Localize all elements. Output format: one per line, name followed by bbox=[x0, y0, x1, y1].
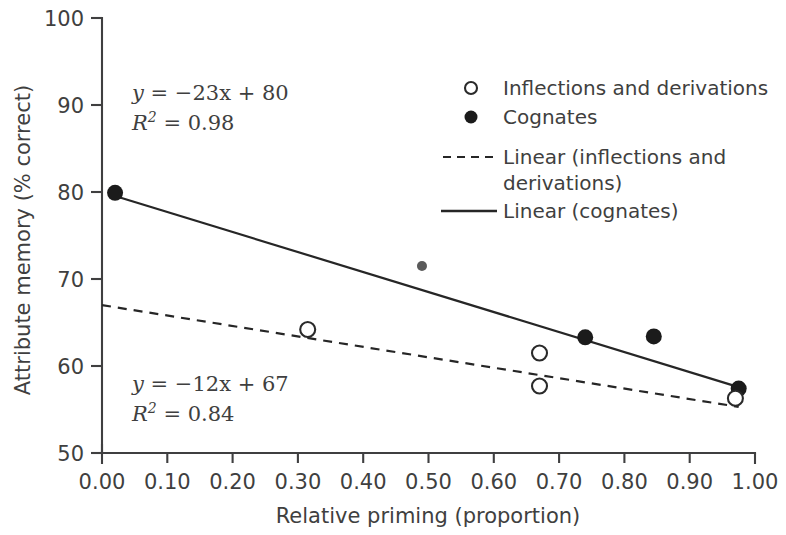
inflections-equation-line1: y = −12x + 67 bbox=[131, 372, 289, 396]
cognates-equation-line1: y = −23x + 80 bbox=[131, 81, 289, 105]
x-tick-label: 0.40 bbox=[340, 470, 387, 494]
inflections-equation-line2: R2 = 0.84 bbox=[131, 400, 234, 426]
x-tick-label: 0.30 bbox=[275, 470, 322, 494]
open-circle-icon bbox=[465, 82, 477, 94]
y-tick-label: 90 bbox=[57, 94, 84, 118]
y-tick-label: 60 bbox=[57, 355, 84, 379]
x-tick-label: 0.10 bbox=[144, 470, 191, 494]
x-tick-label: 0.90 bbox=[666, 470, 713, 494]
data-point-inflections bbox=[728, 391, 743, 406]
scatter-plot-figure: 5060708090100 0.000.100.200.300.400.500.… bbox=[0, 0, 786, 535]
x-tick-label: 0.20 bbox=[209, 470, 256, 494]
annotation-inflections-equation: y = −12x + 67 R2 = 0.84 bbox=[131, 372, 289, 426]
x-tick-label: 0.00 bbox=[79, 470, 126, 494]
data-point-inflections bbox=[300, 322, 315, 337]
data-point-cognates bbox=[577, 329, 593, 345]
x-tick-label: 1.00 bbox=[732, 470, 779, 494]
y-tick-label: 50 bbox=[57, 442, 84, 466]
legend-item-cognates-label: Cognates bbox=[503, 105, 597, 129]
regression-line-cognates bbox=[115, 196, 742, 388]
x-tick-label: 0.60 bbox=[470, 470, 517, 494]
data-point-cognates bbox=[417, 261, 427, 271]
legend-item-linear-cognates-label: Linear (cognates) bbox=[503, 199, 679, 223]
y-tick-label: 80 bbox=[57, 181, 84, 205]
y-tick-label: 70 bbox=[57, 268, 84, 292]
x-axis-title: Relative priming (proportion) bbox=[276, 504, 581, 528]
data-point-inflections bbox=[532, 379, 547, 394]
x-tick-label: 0.50 bbox=[405, 470, 452, 494]
cognates-equation-line2: R2 = 0.98 bbox=[131, 109, 234, 135]
x-tick-label: 0.80 bbox=[601, 470, 648, 494]
data-point-cognates bbox=[646, 328, 662, 344]
data-point-inflections bbox=[532, 345, 547, 360]
chart-legend: Inflections and derivations Cognates Lin… bbox=[441, 76, 768, 223]
data-point-cognates bbox=[107, 185, 123, 201]
y-tick-label: 100 bbox=[44, 7, 84, 31]
legend-item-linear-inflections-label-cont: derivations) bbox=[503, 171, 622, 195]
x-axis-tick-labels: 0.000.100.200.300.400.500.600.700.800.90… bbox=[79, 470, 779, 494]
chart-canvas: 5060708090100 0.000.100.200.300.400.500.… bbox=[0, 0, 786, 535]
legend-item-linear-inflections-label: Linear (inflections and bbox=[503, 145, 726, 169]
y-axis-tick-labels: 5060708090100 bbox=[44, 7, 84, 466]
x-tick-label: 0.70 bbox=[536, 470, 583, 494]
filled-circle-icon bbox=[465, 111, 478, 124]
legend-item-inflections-label: Inflections and derivations bbox=[503, 76, 768, 100]
y-axis-ticks bbox=[91, 18, 102, 453]
y-axis-title: Attribute memory (% correct) bbox=[11, 85, 35, 395]
annotation-cognates-equation: y = −23x + 80 R2 = 0.98 bbox=[131, 81, 289, 135]
